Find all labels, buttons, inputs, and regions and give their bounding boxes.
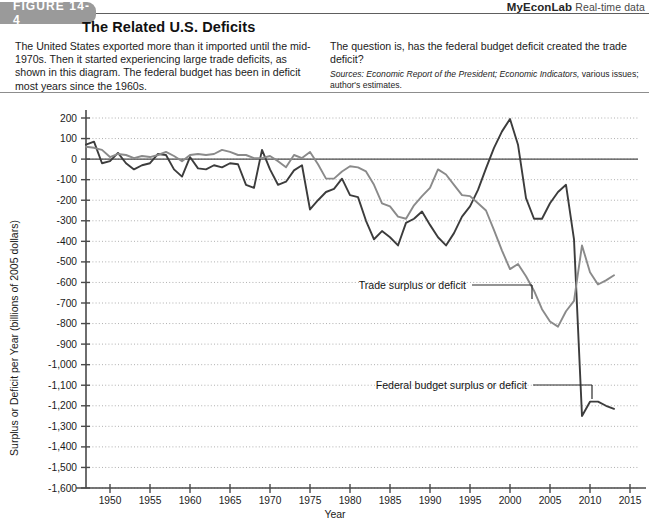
y-tick-label: -800 — [57, 318, 78, 329]
y-tick-label: -200 — [57, 195, 78, 206]
deficits-line-chart: 2001000-100-200-300-400-500-600-700-800-… — [0, 93, 649, 530]
myeconlab-tagline: Real-time data — [575, 1, 645, 13]
sources-title-2: Economic Indicators, — [500, 69, 580, 79]
x-tick-label: 1960 — [179, 495, 202, 506]
caption-sources: Sources: Economic Report of the Presiden… — [330, 69, 642, 90]
y-tick-label: -600 — [57, 277, 78, 288]
y-tick-label: -1,300 — [48, 421, 77, 432]
x-tick-label: 1990 — [419, 495, 442, 506]
y-tick-label: -700 — [57, 298, 78, 309]
y-tick-label: -500 — [57, 256, 78, 267]
y-axis: 2001000-100-200-300-400-500-600-700-800-… — [48, 110, 90, 494]
annotation-label: Federal budget surplus or deficit — [376, 379, 527, 391]
y-tick-label: -1,400 — [48, 441, 77, 452]
x-tick-label: 1970 — [259, 495, 282, 506]
y-tick-label: -400 — [57, 236, 78, 247]
figure-title: The Related U.S. Deficits — [82, 19, 255, 35]
x-tick-label: 2005 — [539, 495, 562, 506]
y-tick-label: 200 — [60, 113, 77, 124]
caption-left-column: The United States exported more than it … — [15, 40, 315, 93]
y-tick-label: 0 — [71, 154, 77, 165]
x-axis: 1950195519601965197019751980198519901995… — [76, 484, 646, 506]
x-tick-label: 2015 — [619, 495, 642, 506]
myeconlab-banner: MyEconLab Real-time data — [507, 1, 645, 13]
caption-question: The question is, has the federal budget … — [330, 40, 642, 66]
sources-title-1: Economic Report of the President; — [366, 69, 497, 79]
y-tick-label: 100 — [60, 133, 77, 144]
x-tick-label: 1950 — [99, 495, 122, 506]
chart-container: 2001000-100-200-300-400-500-600-700-800-… — [0, 92, 649, 530]
x-tick-label: 1985 — [379, 495, 402, 506]
annotation-label: Trade surplus or deficit — [359, 279, 466, 291]
x-axis-title: Year — [324, 508, 346, 520]
myeconlab-brand: MyEconLab — [507, 1, 572, 13]
y-tick-label: -1,100 — [48, 380, 77, 391]
series-line — [86, 147, 614, 327]
x-tick-label: 1995 — [459, 495, 482, 506]
series-line — [86, 119, 614, 416]
gridlines — [86, 118, 638, 488]
y-tick-label: -100 — [57, 174, 78, 185]
y-tick-label: -1,500 — [48, 462, 77, 473]
y-tick-label: -1,600 — [48, 483, 77, 494]
y-tick-label: -1,000 — [48, 359, 77, 370]
x-tick-label: 2010 — [579, 495, 602, 506]
y-axis-title: Surplus or Deficit per Year (billions of… — [8, 220, 20, 456]
x-tick-label: 1975 — [299, 495, 322, 506]
x-tick-label: 1955 — [139, 495, 162, 506]
x-tick-label: 1980 — [339, 495, 362, 506]
data-series — [86, 119, 614, 416]
sources-prefix: Sources: — [330, 69, 364, 79]
y-tick-label: -300 — [57, 215, 78, 226]
x-tick-label: 2000 — [499, 495, 522, 506]
x-tick-label: 1965 — [219, 495, 242, 506]
y-tick-label: -900 — [57, 339, 78, 350]
series-annotations: Trade surplus or deficitFederal budget s… — [359, 279, 592, 399]
caption-right-column: The question is, has the federal budget … — [330, 40, 642, 90]
y-tick-label: -1,200 — [48, 400, 77, 411]
header-divider — [96, 13, 649, 14]
